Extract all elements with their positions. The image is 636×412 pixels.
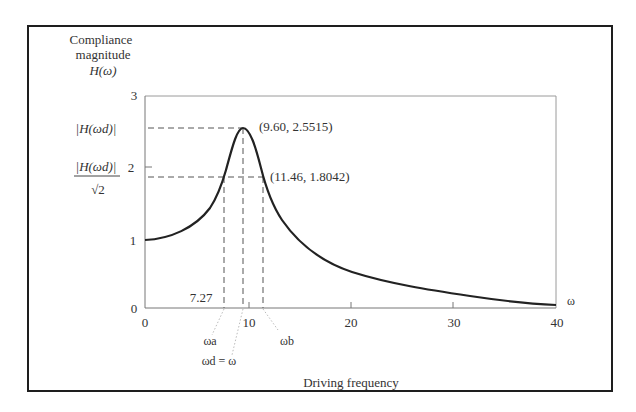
omega-a-label: ωa	[203, 334, 217, 348]
x-tick-0: 0	[142, 315, 149, 330]
half-level-denominator: √2	[91, 182, 105, 197]
omega-b-label: ωb	[280, 334, 294, 348]
x-tick-20: 20	[345, 315, 358, 330]
half-power-point-annotation: (11.46, 1.8042)	[270, 169, 350, 184]
peak-point-annotation: (9.60, 2.5515)	[259, 119, 333, 134]
y-axis-title-line1: Compliance	[70, 32, 133, 47]
x-tick-30: 30	[448, 315, 461, 330]
y-tick-3: 3	[131, 88, 138, 103]
chart-canvas: Compliance magnitude H(ω) 3 2 1 0 |H(ωd)…	[0, 0, 636, 412]
x-axis-symbol: ω	[567, 294, 575, 308]
x-tick-40: 40	[551, 315, 564, 330]
half-level-numerator: |H(ωd)|	[76, 159, 117, 174]
y-tick-0: 0	[131, 301, 138, 316]
x-axis-title: Driving frequency	[303, 375, 399, 390]
x-tick-10: 10	[243, 315, 256, 330]
y-axis-title-line2: magnitude	[76, 47, 131, 62]
y-tick-1: 1	[130, 233, 137, 248]
y-axis-title-line3: H(ω)	[88, 63, 116, 78]
reference-lines	[148, 128, 263, 308]
compliance-curve	[145, 128, 556, 305]
omega-d-label: ωd = ω	[202, 354, 237, 368]
plot-area	[145, 96, 556, 308]
peak-level-label: |H(ωd)|	[76, 121, 117, 136]
y-tick-2: 2	[128, 160, 135, 175]
omega-a-value: 7.27	[190, 290, 213, 305]
axis-ticks	[145, 167, 453, 308]
